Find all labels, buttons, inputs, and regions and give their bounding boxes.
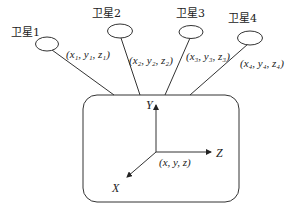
satellite-1-label: 卫星1 xyxy=(11,26,40,39)
satellite-positioning-diagram: 卫星1 卫星2 卫星3 卫星4 (x₁, y₁, z₁) (x₂, y₂, z₂… xyxy=(0,0,291,212)
satellite-3-label: 卫星3 xyxy=(176,7,205,20)
x-axis-arrow xyxy=(127,152,156,177)
satellite-4-icon xyxy=(238,31,263,45)
signal-line-2 xyxy=(121,38,140,95)
satellite-2-label: 卫星2 xyxy=(92,7,121,20)
satellite-4-label: 卫星4 xyxy=(228,12,257,25)
satellite-4-coord: (x₄, y₄, z₄) xyxy=(240,57,284,70)
signal-line-3 xyxy=(165,38,190,95)
z-axis-label: Z xyxy=(216,146,223,160)
satellite-2-icon xyxy=(108,24,133,38)
satellite-1-coord: (x₁, y₁, z₁) xyxy=(66,48,110,61)
receiver-coord: (x, y, z) xyxy=(159,156,191,169)
y-axis-label: Y xyxy=(146,98,154,112)
satellite-3-icon xyxy=(179,26,203,39)
satellite-1-icon xyxy=(36,37,59,51)
satellite-2-coord: (x₂, y₂, z₂) xyxy=(129,54,173,67)
satellite-3-coord: (x₃, y₃, z₃) xyxy=(186,50,230,63)
x-axis-label: X xyxy=(111,181,120,195)
